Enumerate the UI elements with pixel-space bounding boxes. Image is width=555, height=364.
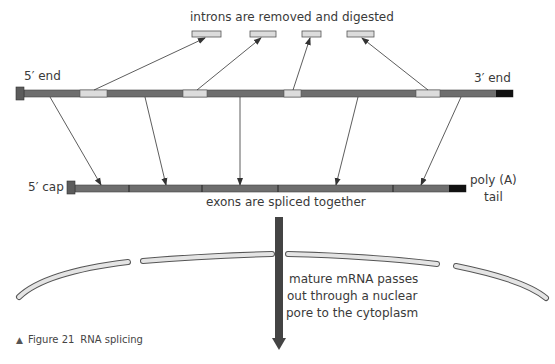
export-label-line1: mature mRNA passes	[289, 272, 418, 286]
removed-introns	[192, 31, 374, 37]
export-arrow	[272, 217, 286, 350]
five-prime-end-label: 5′ end	[24, 69, 61, 83]
pre-mrna-strand	[16, 87, 513, 100]
export-label-line3: pore to the cytoplasm	[286, 306, 418, 320]
introns-removed-label: introns are removed and digested	[190, 10, 394, 24]
mature-mrna-strand	[67, 181, 466, 194]
five-prime-cap-label: 5′ cap	[28, 180, 64, 194]
exons-spliced-label: exons are spliced together	[206, 195, 366, 209]
figure-caption: ▲Figure 21RNA splicing	[16, 334, 143, 345]
intron-removal-arrows	[94, 38, 428, 90]
poly-a-label-line2: tail	[484, 190, 503, 204]
poly-a-label-line1: poly (A)	[470, 173, 517, 187]
triangle-marker-icon: ▲	[16, 335, 23, 345]
figure-number: Figure 21	[28, 334, 74, 345]
three-prime-end-label: 3′ end	[474, 71, 511, 85]
figure-title: RNA splicing	[80, 334, 143, 345]
exon-splicing-arrows	[50, 97, 461, 185]
export-label-line2: out through a nuclear	[287, 289, 417, 303]
